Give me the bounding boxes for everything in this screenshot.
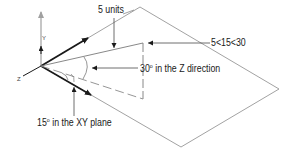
z-angle-arc: [83, 57, 87, 79]
coordinate-label: 5<15<30: [211, 38, 246, 48]
z-angle-text: in the Z direction: [153, 63, 221, 74]
xy-direction-arrow: [41, 66, 91, 95]
xy-angle-label: 15o in the XY plane: [37, 118, 112, 128]
xy-angle-value: 15: [37, 117, 47, 128]
z-axis-label: Z: [17, 76, 21, 82]
xy-angle-arc-2: [71, 74, 74, 82]
y-axis-label: Y: [42, 35, 46, 41]
degree-symbol: o: [150, 63, 153, 69]
x-axis-arrow: [41, 38, 88, 66]
diagram-svg: [0, 0, 292, 157]
z-angle-label: 30o in the Z direction: [140, 64, 220, 74]
xy-angle-text: in the XY plane: [50, 117, 112, 128]
z-axis: [23, 66, 41, 76]
vector-line: [41, 43, 143, 66]
degree-symbol: o: [47, 117, 50, 123]
projection-line: [41, 66, 143, 99]
z-angle-value: 30: [140, 63, 150, 74]
spherical-coordinate-diagram: 5 units 5<15<30 30o in the Z direction 1…: [0, 0, 292, 157]
units-label: 5 units: [98, 5, 124, 15]
